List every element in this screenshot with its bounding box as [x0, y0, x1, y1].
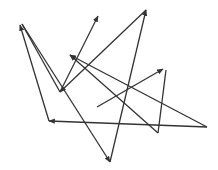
arrow-line-s1	[20, 25, 49, 121]
arrow-diagram-canvas	[0, 0, 218, 170]
arrow-line-s6	[22, 24, 110, 162]
arrow-line-s3	[60, 16, 98, 92]
arrow-line-s7	[49, 121, 207, 127]
arrow-line-s4	[60, 10, 146, 92]
arrow-line-s2	[22, 24, 60, 92]
arrow-segments	[20, 10, 207, 162]
